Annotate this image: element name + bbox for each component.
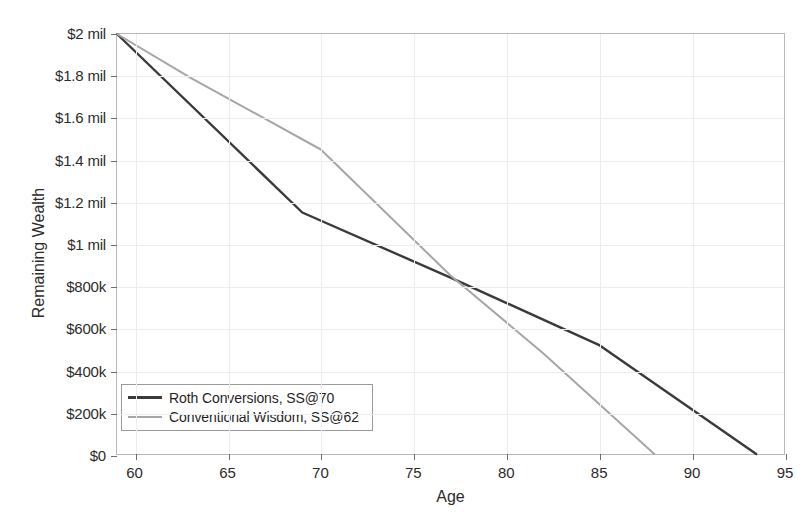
chart-legend: Roth Conversions, SS@70 Conventional Wis… [121, 384, 373, 431]
legend-entry-conventional: Conventional Wisdom, SS@62 [128, 407, 366, 426]
gridline-vertical [507, 34, 508, 454]
x-axis-title: Age [116, 488, 785, 506]
plot-area: Roth Conversions, SS@70 Conventional Wis… [116, 33, 785, 455]
y-axis-tick-label: $1 mil [67, 236, 106, 253]
legend-label-roth: Roth Conversions, SS@70 [169, 390, 334, 406]
gridline-horizontal [117, 372, 784, 373]
y-axis-tick [111, 118, 117, 119]
gridline-vertical [693, 34, 694, 454]
x-axis-tick [229, 454, 230, 460]
x-axis-tick-label: 85 [591, 464, 608, 481]
x-axis-tick [136, 454, 137, 460]
gridline-horizontal [117, 76, 784, 77]
y-axis-tick-label: $600k [66, 320, 106, 337]
y-axis-tick [111, 161, 117, 162]
y-axis-tick-label: $200k [66, 404, 106, 421]
x-axis-tick-label: 95 [777, 464, 794, 481]
gridline-vertical [229, 34, 230, 454]
legend-swatch-conventional [128, 416, 162, 418]
legend-entry-roth: Roth Conversions, SS@70 [128, 388, 366, 407]
gridline-horizontal [117, 414, 784, 415]
x-axis-tick-labels: 6065707580859095 [116, 464, 785, 486]
y-axis-tick-label: $800k [66, 278, 106, 295]
y-axis-tick-label: $1.6 mil [55, 109, 106, 126]
x-axis-tick-label: 65 [219, 464, 236, 481]
gridline-horizontal [117, 118, 784, 119]
gridline-horizontal [117, 203, 784, 204]
y-axis-tick [111, 76, 117, 77]
y-axis-tick [111, 245, 117, 246]
x-axis-tick [786, 454, 787, 460]
x-axis-tick [321, 454, 322, 460]
y-axis-tick [111, 329, 117, 330]
gridline-horizontal [117, 161, 784, 162]
gridline-horizontal [117, 287, 784, 288]
y-axis-tick-label: $0 [90, 447, 106, 464]
gridline-horizontal [117, 245, 784, 246]
y-axis-tick [111, 456, 117, 457]
legend-label-conventional: Conventional Wisdom, SS@62 [169, 409, 359, 425]
y-axis-tick-label: $400k [66, 362, 106, 379]
x-axis-tick-label: 60 [126, 464, 143, 481]
x-axis-tick [507, 454, 508, 460]
y-axis-tick-labels: $0$200k$400k$600k$800k$1 mil$1.2 mil$1.4… [0, 33, 106, 455]
y-axis-tick-label: $1.4 mil [55, 151, 106, 168]
x-axis-tick-label: 75 [405, 464, 422, 481]
chart-figure: Remaining Wealth $0$200k$400k$600k$800k$… [0, 0, 812, 522]
x-axis-tick [600, 454, 601, 460]
y-axis-tick-label: $2 mil [67, 25, 106, 42]
gridline-vertical [321, 34, 322, 454]
x-axis-tick [414, 454, 415, 460]
x-axis-tick-label: 90 [684, 464, 701, 481]
y-axis-tick [111, 414, 117, 415]
y-axis-tick [111, 372, 117, 373]
y-axis-tick-label: $1.2 mil [55, 193, 106, 210]
gridline-vertical [414, 34, 415, 454]
y-axis-tick [111, 287, 117, 288]
x-axis-tick-label: 70 [312, 464, 329, 481]
gridline-vertical [600, 34, 601, 454]
x-axis-tick-label: 80 [498, 464, 515, 481]
x-axis-tick [693, 454, 694, 460]
y-axis-tick-label: $1.8 mil [55, 67, 106, 84]
legend-swatch-roth [128, 396, 162, 399]
y-axis-tick [111, 34, 117, 35]
gridline-vertical [136, 34, 137, 454]
gridline-horizontal [117, 329, 784, 330]
y-axis-tick [111, 203, 117, 204]
